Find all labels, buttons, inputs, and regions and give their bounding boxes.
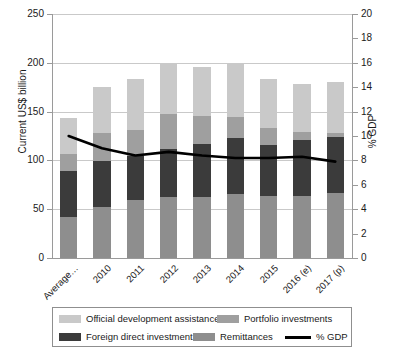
y-tick-right (353, 185, 358, 186)
bar-segment-remittances (160, 197, 177, 258)
bar-segment-remittances (127, 200, 144, 258)
y-tick-right (353, 160, 358, 161)
bar-group (160, 14, 177, 258)
y-tick-right (353, 112, 358, 113)
y-tick-label-left: 250 (4, 9, 44, 19)
y-tick-right (353, 234, 358, 235)
legend-item[interactable]: Official development assistance (59, 310, 219, 328)
bar-group (260, 14, 277, 258)
legend-item[interactable]: Portfolio investments (217, 310, 332, 328)
legend-swatch-remittances-icon (193, 333, 215, 341)
legend-label: Remittances (220, 332, 273, 342)
y-axis-left-title: Current US$ billion (17, 42, 28, 182)
bar-series-layer (52, 14, 352, 258)
bar-group (60, 14, 77, 258)
y-tick-label-right: 4 (361, 204, 401, 214)
bar-segment-remittances (93, 207, 110, 258)
y-tick-right (353, 14, 358, 15)
y-tick-label-right: 2 (361, 229, 401, 239)
bar-segment-portfolio-investments (227, 117, 244, 137)
bar-group (193, 14, 210, 258)
bar-segment-official-development-assistance (327, 82, 344, 133)
bar-segment-official-development-assistance (227, 64, 244, 118)
bar-segment-remittances (327, 193, 344, 258)
bar-segment-foreign-direct-investment (127, 156, 144, 200)
bar-segment-official-development-assistance (60, 118, 77, 153)
bar-segment-portfolio-investments (160, 114, 177, 149)
bar-segment-official-development-assistance (193, 67, 210, 117)
y-tick-right (353, 63, 358, 64)
bar-segment-remittances (227, 194, 244, 258)
bar-segment-official-development-assistance (93, 87, 110, 133)
bar-segment-official-development-assistance (293, 84, 310, 132)
bar-group (227, 14, 244, 258)
bar-segment-remittances (60, 217, 77, 258)
y-tick-right (353, 87, 358, 88)
bar-group (127, 14, 144, 258)
bar-segment-foreign-direct-investment (193, 144, 210, 198)
bar-segment-portfolio-investments (60, 154, 77, 172)
y-tick-label-right: 18 (361, 33, 401, 43)
bar-segment-foreign-direct-investment (293, 140, 310, 196)
legend-label: Official development assistance (86, 314, 219, 324)
bar-segment-portfolio-investments (327, 133, 344, 137)
bar-segment-remittances (293, 196, 310, 258)
x-axis-labels: Average…2010201120122013201420152016 (e)… (0, 258, 405, 302)
bar-segment-foreign-direct-investment (60, 171, 77, 217)
chart-root: 05010015020025002468101214161820 Current… (0, 0, 405, 357)
bar-segment-portfolio-investments (93, 133, 110, 161)
bar-segment-foreign-direct-investment (327, 137, 344, 193)
chart-legend: Official development assistancePortfolio… (52, 307, 352, 347)
bar-segment-portfolio-investments (293, 132, 310, 140)
bar-segment-portfolio-investments (260, 128, 277, 145)
legend-label: Foreign direct investment (86, 332, 193, 342)
bar-segment-portfolio-investments (127, 130, 144, 156)
y-tick-label-right: 16 (361, 58, 401, 68)
bar-segment-official-development-assistance (160, 63, 177, 114)
bar-segment-foreign-direct-investment (93, 161, 110, 207)
bar-segment-foreign-direct-investment (260, 145, 277, 196)
y-tick-right (353, 209, 358, 210)
y-axis-left-line (52, 14, 53, 259)
legend-swatch-gdp-icon (285, 336, 311, 339)
bar-group (93, 14, 110, 258)
y-tick-label-left: 50 (4, 204, 44, 214)
y-axis-right-title: % GDP (367, 82, 378, 182)
y-tick-right (353, 38, 358, 39)
bar-segment-remittances (193, 197, 210, 258)
bar-segment-foreign-direct-investment (227, 138, 244, 194)
legend-item[interactable]: % GDP (285, 328, 348, 346)
y-tick-label-right: 20 (361, 9, 401, 19)
legend-swatch-fdi-icon (59, 333, 81, 341)
legend-swatch-oda-icon (59, 315, 81, 323)
legend-label: Portfolio investments (244, 314, 332, 324)
bar-segment-foreign-direct-investment (160, 149, 177, 197)
legend-item[interactable]: Foreign direct investment (59, 328, 193, 346)
legend-label: % GDP (316, 332, 348, 342)
bar-segment-official-development-assistance (260, 79, 277, 128)
bar-group (327, 14, 344, 258)
bar-segment-official-development-assistance (127, 79, 144, 130)
bar-segment-portfolio-investments (193, 116, 210, 143)
y-tick-right (353, 136, 358, 137)
y-axis-right-line (352, 14, 353, 259)
bar-group (293, 14, 310, 258)
legend-item[interactable]: Remittances (193, 328, 273, 346)
legend-swatch-portfolio-icon (217, 315, 239, 323)
bar-segment-remittances (260, 196, 277, 258)
